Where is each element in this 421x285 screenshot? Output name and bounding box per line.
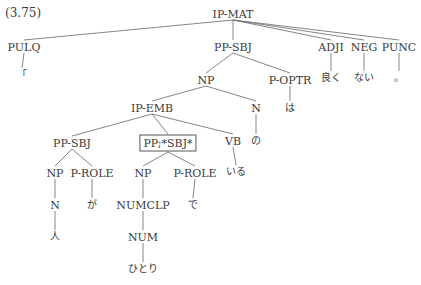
tree-leaf-word: ひとり (128, 264, 158, 274)
example-number: (3.75) (5, 6, 41, 20)
tree-node-label: PP-SBJ (214, 42, 252, 53)
tree-leaf-word: ない (354, 73, 374, 83)
tree-node-label: IP-EMB (131, 103, 173, 114)
tree-edge (22, 53, 24, 68)
tree-edge (233, 147, 236, 165)
tree-leaf-word: 人 (50, 232, 60, 242)
tree-edge (152, 86, 206, 101)
tree-node-label: NUM (128, 232, 158, 243)
tree-node-label: NP (134, 168, 151, 179)
tree-node-label: PP;*SBJ* (139, 135, 196, 152)
tree-node-label: ADJI (318, 42, 344, 53)
tree-leaf-word: 「 (17, 70, 27, 80)
tree-node-label: P-ROLE (70, 168, 113, 179)
tree-leaf-word: は (285, 103, 295, 113)
tree-node-label: PP-SBJ (53, 138, 91, 149)
tree-node-label: NEG (351, 42, 377, 53)
tree-node-label: NP (197, 75, 214, 86)
tree-edge (233, 20, 364, 40)
tree-leaf-word: いる (226, 167, 246, 177)
tree-edge (143, 152, 168, 166)
tree-edge (55, 149, 72, 166)
tree-edge (233, 53, 290, 73)
tree-edge (72, 149, 92, 166)
tree-leaf-word: 。 (394, 73, 404, 83)
tree-edge (168, 152, 195, 166)
tree-node-label: NP (46, 168, 63, 179)
tree-node-label: PUNC (382, 42, 417, 53)
tree-edge (24, 20, 233, 40)
tree-node-label: P-ROLE (173, 168, 216, 179)
tree-leaf-word: の (251, 136, 261, 146)
tree-leaf-word: が (87, 200, 97, 210)
tree-node-label: IP-MAT (213, 9, 254, 20)
tree-node-label: N (251, 103, 261, 114)
tree-edge (206, 53, 233, 73)
tree-node-label: VB (225, 136, 241, 147)
tree-node-label: PULQ (8, 42, 41, 53)
tree-edge (206, 86, 256, 101)
tree-edge (193, 179, 195, 198)
tree-node-label: P-OPTR (269, 75, 312, 86)
tree-node-label: N (50, 200, 60, 211)
tree-leaf-word: で (188, 200, 198, 210)
tree-node-label: NUMCLP (116, 200, 169, 211)
tree-edge (152, 114, 233, 134)
tree-edge (72, 114, 152, 136)
tree-leaf-word: 良く (321, 73, 341, 83)
